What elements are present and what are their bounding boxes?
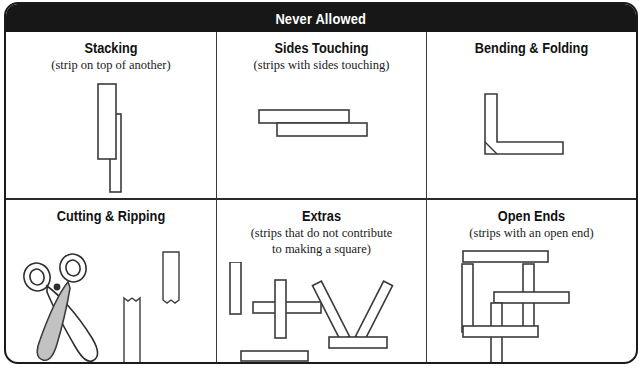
strip-cross-vertical (275, 280, 286, 338)
header-bar: Never Allowed (6, 4, 636, 32)
panel-caption: Sides Touching (strips with sides touchi… (217, 40, 426, 72)
panel-title: Bending & Folding (440, 40, 624, 56)
panel-caption: Extras (strips that do not contribute to… (217, 208, 426, 256)
panel-bending-folding: Bending & Folding (426, 32, 636, 198)
panel-subtitle: (strips with an open end) (427, 226, 636, 240)
panel-subtitle: (strips with sides touching) (217, 58, 426, 72)
strip-middle-horizontal (494, 292, 569, 303)
panel-title: Sides Touching (230, 40, 414, 56)
strip-left-vertical (462, 264, 473, 332)
strip-lower-horizontal (277, 123, 367, 136)
panel-caption: Bending & Folding (427, 40, 636, 58)
strip-bottom-horizontal (463, 326, 538, 337)
figure-extras (217, 262, 426, 364)
strip-bottom-horizontal (241, 351, 308, 361)
scissors-icon (20, 251, 97, 362)
panel-caption: Open Ends (strips with an open end) (427, 208, 636, 240)
strip-bent-l-shape (485, 94, 563, 154)
panel-caption: Cutting & Ripping (6, 208, 216, 226)
panel-title: Extras (230, 208, 414, 224)
panel-cutting-ripping: Cutting & Ripping (6, 198, 216, 364)
panel-subtitle: (strips that do not contribute (217, 226, 426, 240)
strip-upper-horizontal (259, 110, 349, 123)
rules-grid: Stacking (strip on top of another) Sides… (6, 32, 636, 364)
panel-caption: Stacking (strip on top of another) (6, 40, 216, 72)
triangle-of-strips (312, 281, 392, 348)
strip-torn-tall (163, 252, 179, 303)
figure-bending-folding (427, 78, 636, 198)
panel-subtitle-line2: to making a square) (217, 242, 426, 256)
page-title: Never Allowed (276, 10, 367, 27)
panel-subtitle: (strip on top of another) (6, 58, 216, 72)
strip-top-horizontal (463, 251, 548, 262)
strip-torn-short (124, 298, 140, 364)
panel-stacking: Stacking (strip on top of another) (6, 32, 216, 198)
figure-sides-touching (217, 78, 426, 198)
panel-title: Stacking (19, 40, 204, 56)
panel-title: Open Ends (440, 208, 624, 224)
strip-front-vertical (98, 84, 116, 159)
panel-title: Cutting & Ripping (19, 208, 204, 224)
strip-cross-horizontal (253, 302, 321, 313)
figure-stacking (6, 78, 216, 198)
never-allowed-card: Never Allowed Stacking (strip on top of … (4, 2, 638, 364)
panel-open-ends: Open Ends (strips with an open end) (426, 198, 636, 364)
strip-lone-vertical (230, 262, 241, 314)
figure-cutting-ripping (6, 246, 216, 364)
panel-sides-touching: Sides Touching (strips with sides touchi… (216, 32, 426, 198)
panel-extras: Extras (strips that do not contribute to… (216, 198, 426, 364)
figure-open-ends (427, 246, 636, 364)
